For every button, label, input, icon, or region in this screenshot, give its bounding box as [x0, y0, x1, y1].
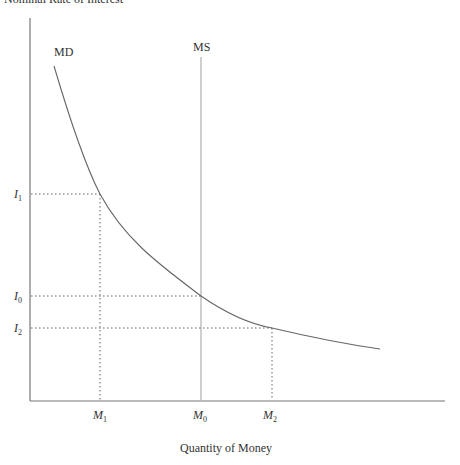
x-tick-m2: M2: [262, 408, 277, 424]
x-tick-m0: M0: [192, 408, 207, 424]
x-axis-label: Quantity of Money: [180, 441, 272, 455]
x-tick-m1: M1: [92, 408, 107, 424]
x-tick-labels: M1 M0 M2: [92, 408, 277, 424]
y-tick-i1: I1: [13, 187, 22, 203]
money-market-chart: Nominal Rate of Interest MS MD I1 I0 I2 …: [0, 0, 460, 465]
y-tick-i0: I0: [13, 289, 22, 305]
guide-lines: [31, 194, 272, 400]
y-tick-labels: I1 I0 I2: [13, 187, 22, 337]
md-label: MD: [54, 45, 74, 59]
y-axis-label: Nominal Rate of Interest: [4, 0, 124, 6]
ms-label: MS: [193, 40, 210, 54]
md-curve: [54, 66, 380, 349]
y-tick-i2: I2: [13, 321, 22, 337]
